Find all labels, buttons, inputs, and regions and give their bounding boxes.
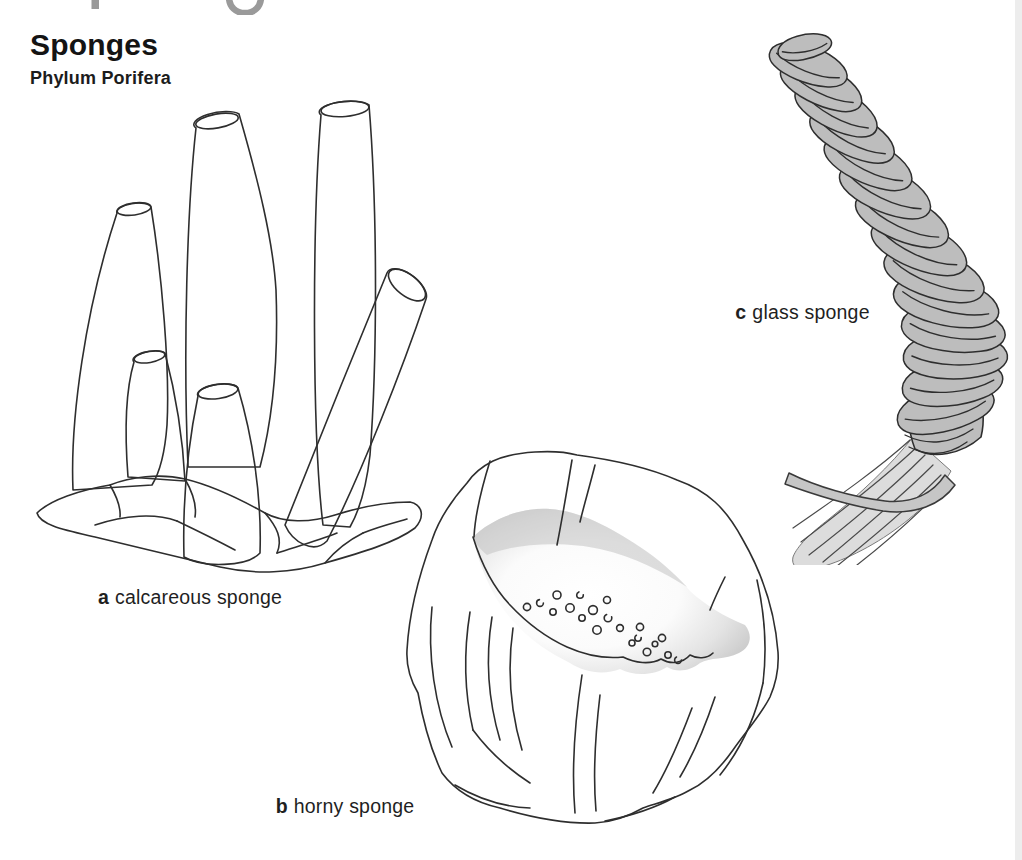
figure-letter: a: [98, 586, 109, 608]
page-subtitle: Phylum Porifera: [30, 68, 171, 89]
figure-caption: horny sponge: [294, 795, 415, 817]
cropped-heading-fragments: [0, 0, 300, 15]
horny-sponge-illustration: [395, 445, 795, 835]
figure-letter: c: [735, 301, 746, 323]
sponge-tubes: [73, 99, 431, 564]
title-block: Sponges Phylum Porifera: [30, 28, 171, 89]
page-edge-shading: [1015, 0, 1022, 860]
figure-caption: calcareous sponge: [115, 586, 282, 608]
twisted-column-folds: [765, 29, 1008, 442]
page-title: Sponges: [30, 28, 171, 62]
figure-label-calcareous-sponge: acalcareous sponge: [25, 586, 355, 609]
figure-label-glass-sponge: cglass sponge: [650, 301, 955, 324]
calcareous-sponge-illustration: [25, 95, 445, 575]
osculum-basin: [473, 509, 750, 674]
figure-caption: glass sponge: [752, 301, 869, 323]
glass-sponge-illustration: [765, 25, 1015, 565]
textbook-page: Sponges Phylum Porifera: [0, 0, 1022, 860]
figure-letter: b: [276, 795, 288, 817]
figure-label-horny-sponge: bhorny sponge: [180, 795, 510, 818]
